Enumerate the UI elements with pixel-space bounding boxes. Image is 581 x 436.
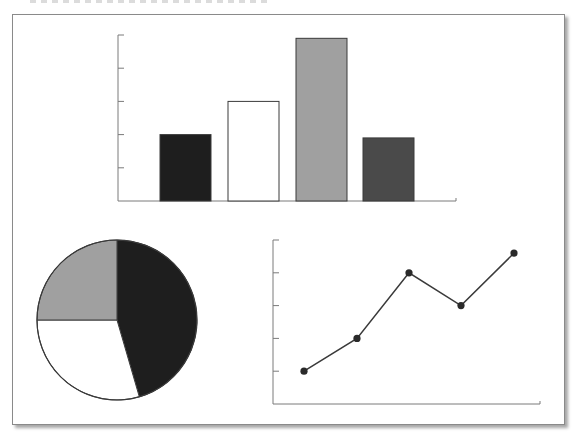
- data-point-5: [510, 250, 517, 257]
- data-point-1: [300, 368, 307, 375]
- line-chart-series: [300, 250, 517, 375]
- bar-3: [296, 38, 347, 201]
- data-point-4: [457, 302, 464, 309]
- pie-slice-gray: [37, 240, 117, 320]
- figure-canvas: [0, 0, 581, 436]
- line-chart-axes: [273, 240, 540, 404]
- bar-1: [160, 135, 211, 201]
- bar-4: [363, 138, 414, 201]
- bar-2: [228, 101, 279, 201]
- bar-chart-bars: [160, 38, 414, 201]
- data-point-2: [353, 335, 360, 342]
- line-chart: [273, 240, 540, 404]
- data-point-3: [405, 269, 412, 276]
- pie-chart: [37, 240, 197, 400]
- charts-svg: [0, 0, 581, 436]
- bar-chart: [118, 35, 456, 201]
